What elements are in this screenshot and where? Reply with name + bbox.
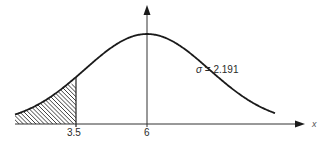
sigma-annotation: σ = 2.191 <box>196 65 238 75</box>
x-axis-label: x <box>312 120 317 129</box>
x-axis-arrowhead-icon <box>295 121 305 128</box>
plot-canvas <box>0 0 325 143</box>
tick-label-3-5: 3.5 <box>67 128 81 138</box>
normal-distribution-diagram: 3.5 6 x σ = 2.191 <box>0 0 325 143</box>
shaded-tail-region <box>0 84 141 124</box>
tick-label-mean-6: 6 <box>144 128 150 138</box>
sigma-value: = 2.191 <box>202 64 238 75</box>
vertical-axis-arrowhead-icon <box>144 5 151 15</box>
